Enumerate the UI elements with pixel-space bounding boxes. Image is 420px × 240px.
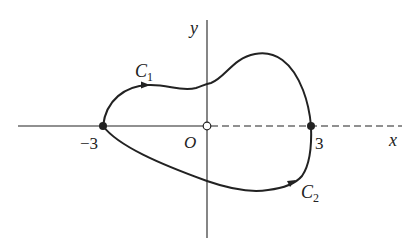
c2-sub: 2 xyxy=(313,191,319,205)
curve-label-c1: C1 xyxy=(135,61,153,84)
tick-label-neg3: −3 xyxy=(80,134,98,153)
point-pos3 xyxy=(307,122,315,130)
point-origin-open xyxy=(203,122,211,130)
origin-label: O xyxy=(184,133,196,152)
point-neg3 xyxy=(99,122,107,130)
curve-label-c2: C2 xyxy=(301,182,319,205)
c1-sub: 1 xyxy=(147,70,153,84)
line-integral-diagram: y x O −3 3 C1 C2 xyxy=(0,0,420,240)
x-axis-label: x xyxy=(388,130,397,150)
tick-label-pos3: 3 xyxy=(315,134,324,153)
y-axis-label: y xyxy=(188,18,198,38)
